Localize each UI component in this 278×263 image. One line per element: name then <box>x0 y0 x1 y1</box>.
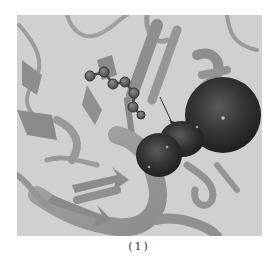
protein-structure-image <box>17 15 262 236</box>
figure-panel <box>17 15 262 236</box>
figure-caption: (1) <box>0 240 278 253</box>
